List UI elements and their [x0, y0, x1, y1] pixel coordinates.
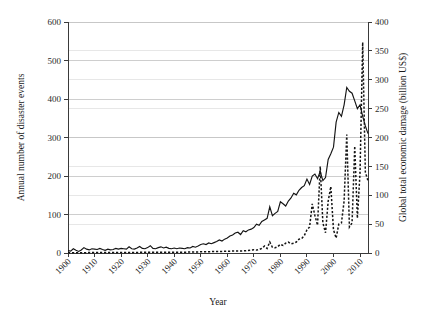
x-tick-label: 1940 — [159, 256, 179, 276]
disaster-events-damage-chart: 0100200300400500600 05010015020025030035… — [0, 0, 427, 320]
y-axis-title-right: Global total economic damage (billion US… — [398, 53, 409, 222]
x-tick-label: 2010 — [345, 256, 365, 276]
y-tick-label-left: 400 — [48, 94, 62, 104]
y-tick-label-right: 50 — [375, 219, 385, 229]
y-axis-title-left: Annual number of disaster events — [16, 73, 26, 201]
chart-figure: 0100200300400500600 05010015020025030035… — [0, 0, 427, 320]
y-tick-label-right: 300 — [375, 75, 389, 85]
y-tick-label-right: 350 — [375, 46, 389, 56]
x-tick-label: 1920 — [106, 256, 126, 276]
x-axis-ticks: 1900191019201930194019501960197019801990… — [53, 253, 365, 276]
y-tick-label-right: 150 — [375, 162, 389, 172]
x-tick-label: 1990 — [292, 256, 312, 276]
x-tick-label: 1930 — [133, 256, 153, 276]
series-disaster-events — [68, 87, 368, 251]
y-tick-label-right: 250 — [375, 104, 389, 114]
y-tick-label-left: 600 — [48, 17, 62, 27]
y-tick-label-left: 500 — [48, 56, 62, 66]
x-tick-label: 1970 — [239, 256, 259, 276]
x-tick-label: 1980 — [266, 256, 286, 276]
y-tick-label-right: 100 — [375, 190, 389, 200]
x-tick-label: 2000 — [319, 256, 339, 276]
x-axis-title: Year — [209, 297, 227, 307]
x-tick-label: 1950 — [186, 256, 206, 276]
y-tick-label-right: 400 — [375, 17, 389, 27]
y-axis-left-ticks: 0100200300400500600 — [48, 17, 69, 258]
y-axis-right-ticks: 050100150200250300350400 — [368, 17, 389, 258]
line-economic-damage — [68, 42, 368, 253]
y-tick-label-left: 300 — [48, 133, 62, 143]
y-tick-label-left: 0 — [57, 248, 62, 258]
y-tick-label-right: 200 — [375, 133, 389, 143]
x-tick-label: 1960 — [212, 256, 232, 276]
x-tick-label: 1910 — [80, 256, 100, 276]
x-tick-label: 1900 — [53, 256, 73, 276]
y-tick-label-left: 200 — [48, 171, 62, 181]
grid-lines-left — [68, 22, 368, 253]
line-disaster-events — [68, 87, 368, 251]
y-tick-label-left: 100 — [48, 210, 62, 220]
series-economic-damage — [68, 42, 368, 253]
y-tick-label-right: 0 — [375, 248, 380, 258]
